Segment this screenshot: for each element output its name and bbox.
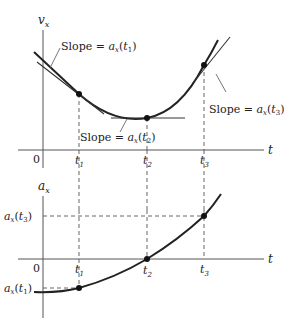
ax-t1-label: ax(t1): [4, 282, 32, 296]
slope-t3-label: Slope = ax(t3): [209, 103, 284, 117]
point-t3: [201, 62, 207, 68]
vx-axis-label: vx: [38, 13, 50, 29]
leader-slope-t1: [50, 48, 60, 68]
ax-point-t2: [144, 256, 150, 262]
point-t1: [76, 91, 82, 97]
point-t2: [144, 115, 150, 121]
ax-axis-label: ax: [38, 179, 50, 195]
top-tick-t3: t3: [200, 154, 209, 169]
top-origin-label: 0: [33, 153, 40, 166]
bottom-graph: ax t 0 t1 t2 t3 ax(t3) ax(t1): [4, 179, 273, 318]
slope-t2-label: Slope = ax(t2): [80, 131, 155, 145]
tangent-t3: [193, 37, 230, 83]
bottom-tick-t2: t2: [143, 264, 152, 279]
tangent-t1: [37, 62, 104, 114]
top-tick-t2: t2: [143, 154, 152, 169]
ax-t3-label: ax(t3): [4, 210, 32, 224]
ax-point-t1: [76, 285, 82, 291]
leader-slope-t3: [216, 74, 226, 92]
slope-t1-label: Slope = ax(t1): [61, 40, 136, 54]
ax-point-t3: [201, 213, 207, 219]
bottom-origin-label: 0: [33, 262, 40, 275]
bottom-tick-t3: t3: [200, 263, 209, 278]
velocity-acceleration-diagram: vx t 0 t1 t2 t3 Slope = ax(t1) Slope = a…: [0, 0, 291, 324]
top-graph: vx t 0 t1 t2 t3 Slope = ax(t1) Slope = a…: [18, 13, 284, 169]
acceleration-curve: [34, 194, 221, 292]
top-t-label: t: [268, 143, 273, 157]
bottom-t-label: t: [268, 252, 273, 266]
